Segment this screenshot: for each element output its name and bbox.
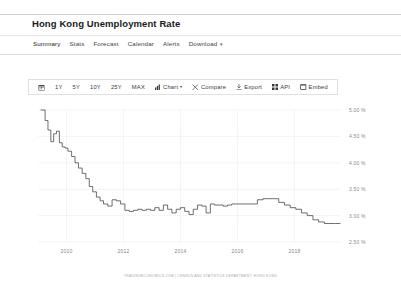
nav-item-forecast[interactable]: Forecast [93,39,118,49]
title-bar: Hong Kong Unemployment Rate [0,15,401,36]
series-line-unemployment-rate [41,110,340,224]
grid-icon [272,84,278,90]
calendar-icon [38,84,45,91]
chart-type-label: Chart [163,80,178,94]
nav-item-alerts[interactable]: Alerts [163,39,180,49]
chart-footer: TRADINGECONOMICS.COM | CENSUS AND STATIS… [0,263,401,281]
chart-page: Hong Kong Unemployment Rate Summary Stat… [0,0,401,288]
compare-label: Compare [201,80,226,94]
compare-icon [192,84,199,91]
range-button-25y[interactable]: 25Y [106,80,127,94]
page-title: Hong Kong Unemployment Rate [32,18,180,29]
chart-type-button[interactable]: Chart ▾ [150,80,187,94]
nav-bar: Summary Stats Forecast Calendar Alerts D… [0,36,401,55]
nav-items: Summary Stats Forecast Calendar Alerts D… [33,39,223,49]
x-axis-tick-label: 2014 [174,248,186,254]
chevron-down-icon[interactable]: ▾ [220,42,223,47]
range-button-5y[interactable]: 5Y [68,80,86,94]
chevron-down-icon: ▾ [180,80,182,94]
nav-item-download[interactable]: Download [189,39,218,49]
range-button-10y[interactable]: 10Y [85,80,106,94]
chart-gridlines [38,110,340,242]
embed-label: Embed [309,80,328,94]
nav-item-stats[interactable]: Stats [70,39,85,49]
y-axis-tick-label: 3.00 % [349,213,366,219]
calendar-range-button[interactable] [33,84,50,91]
api-button[interactable]: API [267,80,295,94]
x-axis-tick-label: 2010 [61,248,73,254]
x-axis-tick-label: 2012 [118,248,130,254]
source-attribution: TRADINGECONOMICS.COM | CENSUS AND STATIS… [124,274,277,278]
unemployment-rate-line-chart[interactable]: 5.00 %4.50 %4.00 %3.50 %3.00 %2.50 % 201… [0,104,401,264]
nav-item-summary[interactable]: Summary [33,39,61,49]
y-axis-tick-label: 3.50 % [349,186,366,192]
top-strip [0,0,401,15]
chart-toolbar: 1Y 5Y 10Y 25Y MAX Chart ▾ Compare [28,79,338,95]
download-icon [236,84,242,91]
export-button[interactable]: Export [231,80,267,94]
range-button-1y[interactable]: 1Y [50,80,68,94]
chart-series [41,110,340,224]
export-label: Export [244,80,262,94]
bar-chart-icon [155,84,161,90]
range-button-max[interactable]: MAX [127,80,150,94]
x-axis-tick-label: 2018 [288,248,300,254]
chart-area[interactable]: 5.00 %4.50 %4.00 %3.50 %3.00 %2.50 % 201… [0,104,401,264]
compare-button[interactable]: Compare [187,80,231,94]
y-axis-tick-label: 4.50 % [349,133,366,139]
y-axis-labels: 5.00 %4.50 %4.00 %3.50 %3.00 %2.50 % [349,107,366,245]
y-axis-tick-label: 4.00 % [349,160,366,166]
x-axis-tick-label: 2016 [231,248,243,254]
x-axis-labels: 20102012201420162018 [61,248,301,254]
embed-button[interactable]: Embed [295,80,333,94]
embed-icon [300,84,307,90]
api-label: API [280,80,290,94]
y-axis-tick-label: 2.50 % [349,239,366,245]
nav-item-calendar[interactable]: Calendar [128,39,154,49]
y-axis-tick-label: 5.00 % [349,107,366,113]
